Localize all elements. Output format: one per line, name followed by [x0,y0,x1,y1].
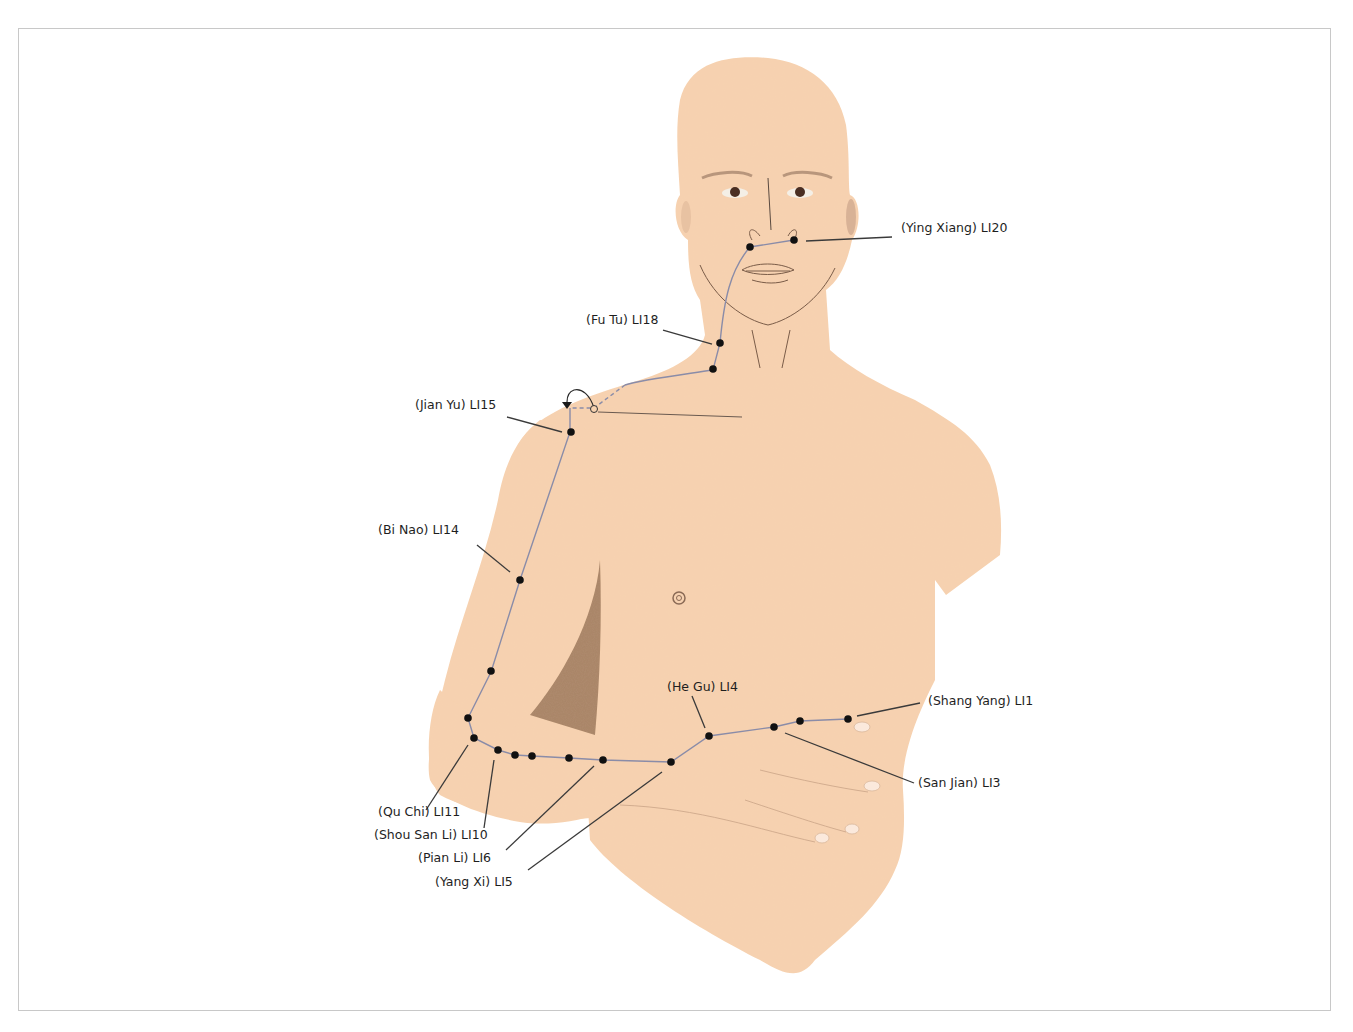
point-LI6 [599,756,607,764]
label-LI3: (San Jian) LI3 [918,776,1001,790]
label-LI15: (Jian Yu) LI15 [415,398,496,412]
point-LI12 [464,714,472,722]
open-point [591,406,598,413]
point-LI14 [516,576,524,584]
label-LI11: (Qu Chi) LI11 [378,805,460,819]
point-LI5 [667,758,675,766]
ear-far [681,201,691,233]
label-LI1: (Shang Yang) LI1 [928,694,1033,708]
body-silhouette [429,57,1001,973]
point-LI10 [494,746,502,754]
point-LI3 [770,723,778,731]
point-LI2 [796,717,804,725]
label-LI18: (Fu Tu) LI18 [586,313,658,327]
point-LI9 [511,751,519,759]
label-LI20: (Ying Xiang) LI20 [901,221,1007,235]
label-LI6: (Pian Li) LI6 [418,851,491,865]
label-LI5: (Yang Xi) LI5 [435,875,513,889]
ear [846,199,856,235]
point-LI15 [567,428,575,436]
point-LI17 [709,365,717,373]
point-LI1 [844,715,852,723]
point-LI20 [790,236,798,244]
point-LI19 [746,243,754,251]
point-LI4 [705,732,713,740]
right-iris [795,187,805,197]
label-LI14: (Bi Nao) LI14 [378,523,459,537]
point-LI7 [565,754,573,762]
point-LI8 [528,752,536,760]
left-iris [730,187,740,197]
point-LI18 [716,339,724,347]
body-illustration [0,0,1353,1032]
label-LI10: (Shou San Li) LI10 [374,828,488,842]
point-LI13 [487,667,495,675]
label-LI4: (He Gu) LI4 [667,680,738,694]
point-LI11 [470,734,478,742]
